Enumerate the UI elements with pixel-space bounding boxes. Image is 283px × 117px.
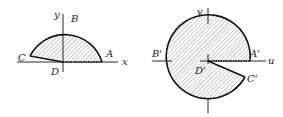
label-u: u — [268, 55, 274, 66]
w-plane-figure: v A' u B' D' C' — [151, 6, 274, 113]
z-plane-figure: y B A x C D — [17, 9, 128, 77]
label-b-prime: B' — [151, 48, 162, 59]
label-v: v — [197, 6, 203, 17]
label-b: B — [70, 13, 78, 24]
label-c: C — [18, 52, 26, 63]
label-a: A — [105, 48, 113, 59]
diagram-canvas: y B A x C D v A' u B' D' C' — [0, 0, 283, 117]
label-a-prime: A' — [249, 48, 260, 59]
label-y: y — [53, 9, 60, 20]
label-x: x — [122, 56, 128, 67]
label-d-prime: D' — [194, 65, 206, 76]
label-c-prime: C' — [247, 73, 257, 84]
label-d: D — [50, 66, 59, 77]
